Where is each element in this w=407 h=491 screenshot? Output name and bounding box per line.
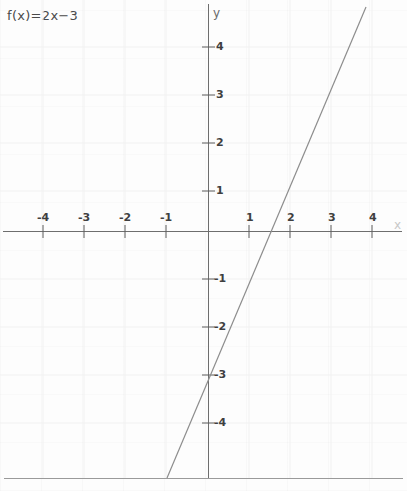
x-tick-label-neg1: -1 — [160, 211, 172, 224]
x-tick-label-4: 4 — [369, 211, 377, 224]
y-axis-label: y — [213, 6, 220, 20]
x-tick-label-neg4: -4 — [37, 211, 49, 224]
function-line — [167, 7, 366, 478]
y-tick-label-neg1: -1 — [214, 272, 226, 285]
x-tick-label-2: 2 — [287, 211, 295, 224]
y-tick-label-1: 1 — [216, 184, 224, 197]
y-tick-label-2: 2 — [216, 136, 224, 149]
x-axis-label: x — [394, 218, 401, 232]
x-tick-label-neg3: -3 — [78, 211, 90, 224]
y-tick-label-neg4: -4 — [214, 416, 226, 429]
y-tick-label-neg2: -2 — [214, 320, 226, 333]
y-tick-label-3: 3 — [216, 88, 224, 101]
plot-canvas — [0, 0, 407, 491]
y-tick-label-neg3: -3 — [214, 368, 226, 381]
x-tick-label-neg2: -2 — [119, 211, 131, 224]
grid-lines — [0, 0, 407, 478]
x-tick-label-3: 3 — [328, 211, 336, 224]
x-tick-label-1: 1 — [246, 211, 254, 224]
function-graph-figure: f(x)=2x−3 — [0, 0, 407, 491]
y-tick-label-4: 4 — [216, 40, 224, 53]
